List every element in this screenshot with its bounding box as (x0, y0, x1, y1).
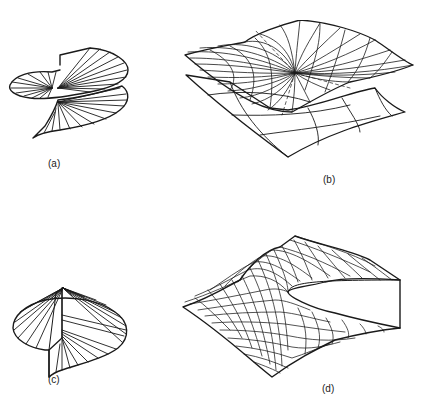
panel-c: (c) (0, 260, 140, 408)
panel-a: (a) (0, 30, 140, 190)
slit-mesh-surface-d (170, 220, 423, 408)
panel-d: (d) (170, 220, 423, 408)
panel-b: (b) (170, 20, 423, 220)
panel-label-c: (c) (48, 374, 60, 385)
panel-label-d: (d) (322, 383, 334, 394)
panel-label-b: (b) (323, 174, 335, 185)
cut-disc-fan-c (0, 260, 140, 408)
panel-label-a: (a) (48, 158, 60, 169)
stacked-mesh-sheets-b (170, 20, 423, 220)
spiral-fan-surface-a (0, 30, 140, 190)
